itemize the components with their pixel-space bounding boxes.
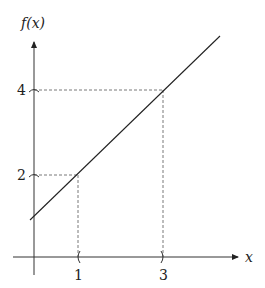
interval-brackets <box>29 90 163 264</box>
x-tick-1: 1 <box>74 267 83 283</box>
function-graph: f(x) x 1 3 2 4 <box>0 0 265 288</box>
x-tick-3: 3 <box>159 267 168 283</box>
guide-lines <box>34 90 163 257</box>
y-axis-label: f(x) <box>20 15 45 31</box>
y-tick-2: 2 <box>17 167 26 183</box>
y-tick-4: 4 <box>17 82 26 98</box>
x-axis-label: x <box>245 249 253 265</box>
function-line <box>30 36 220 220</box>
